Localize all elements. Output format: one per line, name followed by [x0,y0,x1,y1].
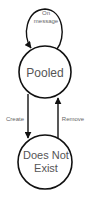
state-diagram: On message Create Remove Pooled Does Not… [0,0,91,199]
state-pooled: Pooled [19,46,71,98]
state-does-not-exist: Does Not Exist [18,135,72,189]
does-not-exist-label-line1: Does Not [23,149,69,161]
on-message-label-line2: message [34,18,59,24]
pooled-label: Pooled [26,66,63,80]
create-label: Create [6,116,25,122]
does-not-exist-label-line2: Exist [34,162,58,174]
on-message-label-line1: On [42,10,50,16]
remove-label: Remove [62,116,85,122]
